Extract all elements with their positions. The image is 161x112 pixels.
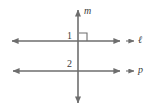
right-angle-marker-icon: [79, 33, 87, 41]
figure-svg: [0, 0, 161, 112]
geometry-figure: m ℓ p 1 2: [0, 0, 161, 112]
line-label-ell: ℓ: [138, 35, 142, 45]
line-label-m: m: [84, 6, 91, 16]
angle-label-1: 1: [67, 31, 72, 41]
line-label-p: p: [138, 65, 143, 75]
angle-label-2: 2: [67, 59, 72, 69]
